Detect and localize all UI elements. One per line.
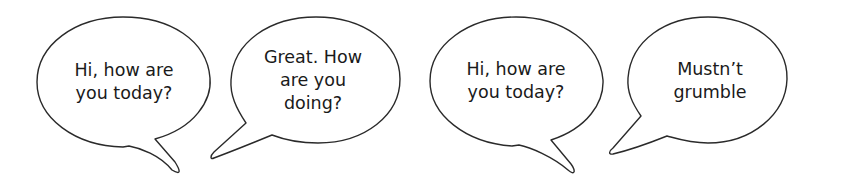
bubble-1-text: Hi, how are you today? (74, 59, 173, 105)
bubble-4-text: Mustn’t grumble (673, 58, 746, 104)
bubble-3-text: Hi, how are you today? (466, 58, 565, 104)
bubble-2-text: Great. How are you doing? (264, 46, 362, 115)
